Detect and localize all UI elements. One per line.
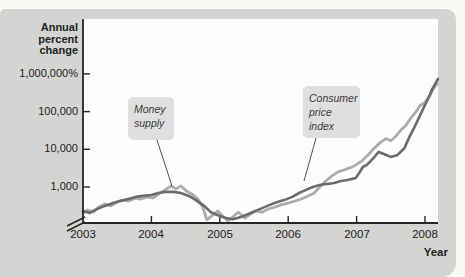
x-axis-title: Year <box>398 246 448 258</box>
money-supply-annotation-line: supply <box>134 116 174 130</box>
x-tick-label-2003: 2003 <box>61 228 105 240</box>
y-tick-label-1000000: 1,000,000% <box>2 67 78 79</box>
y-axis-title-line: Annual <box>2 22 78 34</box>
cpi-annotation-line: price <box>309 105 360 119</box>
figure-screenshot: Annual percent change 1,000,000% 100,000… <box>0 0 465 277</box>
cpi-annotation-line: index <box>309 119 360 133</box>
y-tick-label-100000: 100,000 <box>2 105 78 117</box>
x-tick-label-2004: 2004 <box>129 228 173 240</box>
x-tick-label-2005: 2005 <box>198 228 242 240</box>
y-axis-title-line: change <box>2 45 78 57</box>
cpi-annotation-line: Consumer <box>309 91 360 105</box>
x-tick-label-2007: 2007 <box>335 228 379 240</box>
y-axis-title: Annual percent change <box>2 22 78 57</box>
money-supply-annotation-line: Money <box>134 102 174 116</box>
money-supply-annotation: Money supply <box>128 97 174 140</box>
x-tick-label-2008: 2008 <box>403 228 447 240</box>
x-tick-label-2006: 2006 <box>266 228 310 240</box>
y-tick-label-10000: 10,000 <box>2 142 78 154</box>
y-tick-label-1000: 1,000 <box>2 180 78 192</box>
cpi-annotation: Consumer price index <box>303 86 360 138</box>
